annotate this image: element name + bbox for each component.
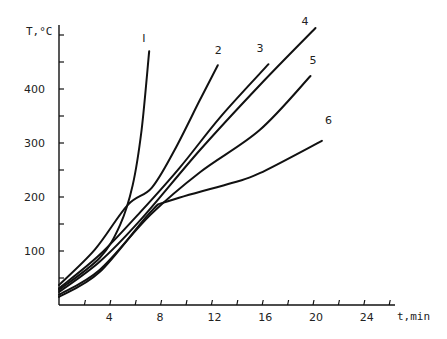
y-tick-label: 300 bbox=[24, 137, 45, 150]
x-tick bbox=[288, 300, 289, 305]
curve-label-I: I bbox=[142, 32, 145, 45]
x-tick bbox=[313, 300, 314, 305]
x-tick bbox=[211, 300, 212, 305]
x-tick bbox=[186, 300, 187, 305]
curve-label-4: 4 bbox=[302, 15, 309, 28]
y-tick-label: 100 bbox=[24, 245, 45, 258]
curve-2 bbox=[59, 65, 218, 285]
x-tick bbox=[338, 300, 339, 305]
curve-label-6: 6 bbox=[325, 114, 332, 127]
x-tick bbox=[161, 300, 162, 305]
curves bbox=[59, 28, 322, 297]
y-tick-label: 400 bbox=[24, 83, 45, 96]
x-axis-label: t,min bbox=[397, 310, 430, 323]
curve-6 bbox=[59, 141, 322, 297]
x-tick-label: 12 bbox=[207, 311, 221, 324]
x-tick bbox=[135, 300, 136, 305]
x-tick bbox=[389, 300, 390, 305]
x-tick-label: 4 bbox=[106, 311, 113, 324]
x-tick bbox=[364, 300, 365, 305]
curve-I bbox=[59, 51, 149, 290]
curve-label-2: 2 bbox=[215, 44, 222, 57]
x-tick bbox=[262, 300, 263, 305]
x-tick-label: 16 bbox=[258, 311, 272, 324]
temperature-time-chart: 100200300400 4812162024 T,°C t,min I2345… bbox=[0, 0, 447, 339]
y-ticks: 100200300400 bbox=[24, 35, 64, 278]
x-tick-label: 8 bbox=[157, 311, 164, 324]
x-tick-label: 20 bbox=[309, 311, 323, 324]
curve-label-5: 5 bbox=[309, 54, 316, 67]
curve-label-3: 3 bbox=[257, 42, 264, 55]
y-tick-label: 200 bbox=[24, 191, 45, 204]
x-tick bbox=[237, 300, 238, 305]
x-tick bbox=[84, 300, 85, 305]
y-axis-label: T,°C bbox=[26, 25, 53, 38]
x-ticks: 4812162024 bbox=[84, 300, 390, 324]
x-tick-label: 24 bbox=[360, 311, 374, 324]
x-tick bbox=[110, 300, 111, 305]
